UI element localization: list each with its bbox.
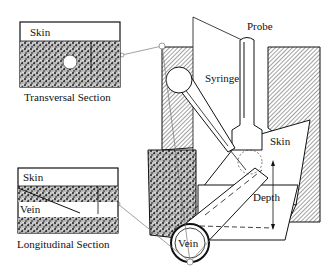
depth-label: Depth xyxy=(253,191,280,203)
diagram-canvas: Skin Transversal Section Skin Vein Longi… xyxy=(0,0,336,277)
vein-label: Vein xyxy=(178,237,199,249)
skin-label: Skin xyxy=(270,135,291,147)
longitudinal-skin-label: Skin xyxy=(23,171,44,183)
longitudinal-vein-label: Vein xyxy=(20,203,41,215)
syringe-label: Syringe xyxy=(205,72,239,84)
transversal-caption: Transversal Section xyxy=(24,91,111,103)
transversal-skin-label: Skin xyxy=(30,26,51,38)
longitudinal-caption: Longitudinal Section xyxy=(17,238,110,250)
probe-label: Probe xyxy=(247,20,273,32)
